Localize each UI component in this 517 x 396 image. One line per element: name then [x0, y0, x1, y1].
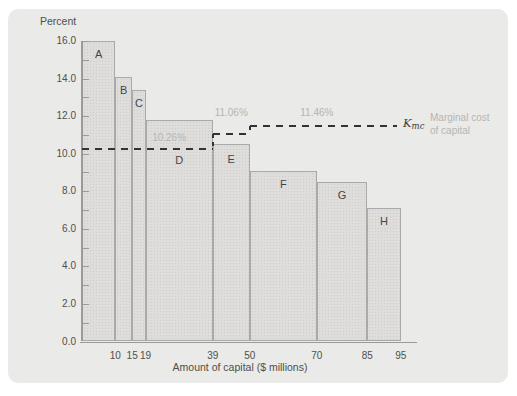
figure-marginal-cost-of-capital: 0.02.04.06.08.010.012.014.016.0101519395…: [0, 0, 517, 396]
plot-area: 0.02.04.06.08.010.012.014.016.0101519395…: [0, 0, 517, 396]
y-tick-label: 12.0: [42, 110, 76, 121]
kmc-symbol: K: [403, 116, 412, 130]
mcc-step-connector: [212, 134, 214, 149]
bar-letter-B: B: [115, 84, 132, 96]
y-tick-label: 16.0: [42, 35, 76, 46]
x-tick-label: 39: [198, 350, 228, 361]
y-axis-tick: [82, 304, 89, 305]
bar-letter-A: A: [82, 48, 116, 60]
mcc-rate-label: 11.46%: [285, 107, 349, 118]
y-tick-label: 10.0: [42, 148, 76, 159]
y-axis-tick: [82, 172, 89, 173]
marginal-cost-caption: Marginal cost of capital: [430, 111, 490, 137]
kmc-line-label: Kmc: [403, 116, 424, 131]
x-tick-label: 50: [235, 350, 265, 361]
bar-C: [132, 90, 145, 342]
y-tick-label: 0.0: [42, 336, 76, 347]
y-tick-label: 14.0: [42, 73, 76, 84]
y-axis-tick: [82, 191, 89, 192]
y-axis-tick: [82, 248, 89, 249]
y-axis-tick: [82, 41, 89, 42]
y-tick-label: 8.0: [42, 185, 76, 196]
mcc-line-segment: [250, 125, 398, 127]
y-tick-label: 2.0: [42, 298, 76, 309]
bar-G: [317, 182, 367, 342]
y-axis-tick: [82, 79, 89, 80]
mcc-rate-label: 10.26%: [137, 132, 201, 143]
x-tick-label: 85: [352, 350, 382, 361]
y-axis-tick: [82, 266, 89, 267]
x-tick-label: 95: [386, 350, 416, 361]
mcc-line-segment: [82, 148, 213, 150]
bar-letter-C: C: [132, 97, 145, 109]
bar-letter-H: H: [367, 215, 401, 227]
bar-F: [250, 171, 317, 342]
y-axis-tick: [82, 285, 89, 286]
mcc-line-segment: [213, 133, 250, 135]
y-tick-label: 4.0: [42, 260, 76, 271]
y-axis-title: Percent: [40, 15, 76, 27]
bar-letter-G: G: [317, 189, 367, 201]
y-axis-tick: [82, 210, 89, 211]
kmc-subscript: mc: [412, 121, 425, 131]
x-tick-label: 19: [131, 350, 161, 361]
y-axis-tick: [82, 97, 89, 98]
x-axis-title: Amount of capital ($ millions): [140, 361, 340, 373]
mcc-step-connector: [249, 126, 251, 134]
bar-H: [367, 208, 401, 341]
y-axis-tick: [82, 116, 89, 117]
x-tick-label: 70: [302, 350, 332, 361]
y-axis-tick: [82, 229, 89, 230]
bar-B: [115, 77, 132, 342]
y-axis-tick: [82, 154, 89, 155]
y-axis-tick: [82, 323, 89, 324]
y-axis-tick: [82, 135, 89, 136]
bar-E: [213, 144, 250, 341]
x-axis: [80, 342, 417, 344]
bar-letter-E: E: [213, 153, 250, 165]
y-tick-label: 6.0: [42, 223, 76, 234]
mcc-rate-label: 11.06%: [199, 107, 263, 118]
bar-letter-D: D: [146, 154, 213, 166]
bar-letter-F: F: [250, 178, 317, 190]
